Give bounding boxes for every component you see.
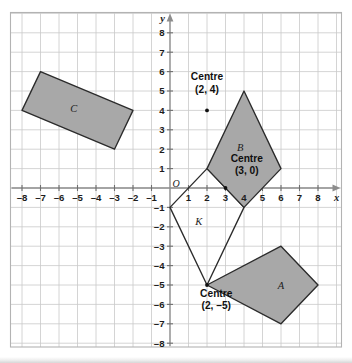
y-tick-label: –8 <box>154 338 165 349</box>
centre-caption-line1-centre-3-0: Centre <box>231 153 264 164</box>
coordinate-plane-svg: –8–7–6–5–4–3–2–11234567887654321–1–2–3–4… <box>0 0 352 363</box>
y-tick-label: 2 <box>159 144 164 155</box>
centre-caption-line1-centre-2-neg5: Centre <box>200 288 233 299</box>
centre-caption-line2-centre-2-4: (2, 4) <box>195 84 219 95</box>
centre-point-centre-2-neg5 <box>205 283 209 287</box>
y-tick-label: 7 <box>159 47 164 58</box>
x-tick-label: –7 <box>35 192 46 203</box>
y-tick-label: –6 <box>154 299 165 310</box>
x-tick-label: 5 <box>260 192 266 203</box>
y-tick-label: 4 <box>159 105 165 116</box>
centre-caption-line2-centre-3-0: (3, 0) <box>235 165 259 176</box>
x-tick-label: 6 <box>278 192 283 203</box>
x-tick-label: 2 <box>204 192 209 203</box>
x-tick-label: 4 <box>241 192 247 203</box>
y-axis-arrowhead <box>167 14 174 22</box>
y-axis-label: y <box>158 13 165 24</box>
centre-caption-line2-centre-2-neg5: (2, –5) <box>202 300 231 311</box>
shape-polygon-B <box>207 91 281 207</box>
x-axis-label: x <box>333 192 339 203</box>
y-tick-label: –2 <box>154 221 165 232</box>
shape-polygon-A <box>207 246 318 324</box>
shape-label-C: C <box>70 103 78 114</box>
y-tick-label: –7 <box>154 318 165 329</box>
centre-point-centre-2-4 <box>205 109 209 113</box>
y-tick-label: 5 <box>159 85 165 96</box>
x-tick-label: –2 <box>128 192 139 203</box>
x-tick-label: 8 <box>315 192 321 203</box>
x-tick-label: –5 <box>72 192 83 203</box>
y-tick-label: 8 <box>159 27 165 38</box>
shape-label-B: B <box>237 142 244 153</box>
y-tick-label: 6 <box>159 66 164 77</box>
page-edge-shadow <box>0 357 352 363</box>
origin-label: O <box>173 178 180 189</box>
x-tick-label: –3 <box>109 192 120 203</box>
y-tick-label: –3 <box>154 241 165 252</box>
x-tick-label: 3 <box>223 192 228 203</box>
centre-caption-line1-centre-2-4: Centre <box>191 71 224 82</box>
x-tick-label: 7 <box>297 192 302 203</box>
y-tick-label: –4 <box>154 260 165 271</box>
y-tick-label: 1 <box>159 163 165 174</box>
y-tick-label: –1 <box>154 202 165 213</box>
y-tick-label: –5 <box>154 279 165 290</box>
y-tick-label: 3 <box>159 124 164 135</box>
x-tick-label: 1 <box>186 192 192 203</box>
x-tick-label: –4 <box>91 192 102 203</box>
x-tick-label: –6 <box>54 192 65 203</box>
shape-label-K: K <box>194 216 203 227</box>
shape-label-A: A <box>277 280 285 291</box>
coordinate-grid-figure: –8–7–6–5–4–3–2–11234567887654321–1–2–3–4… <box>0 0 352 363</box>
x-tick-label: –8 <box>17 192 28 203</box>
centre-point-centre-3-0 <box>224 186 228 190</box>
